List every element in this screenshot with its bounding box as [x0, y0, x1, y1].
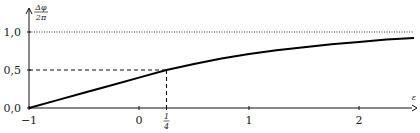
y-tick-label: 1,0	[4, 26, 22, 39]
x-tick-label: 2	[356, 114, 363, 127]
x-tick-label-numerator: 1	[164, 112, 169, 121]
y-axis-label-denominator: 2π	[35, 13, 47, 22]
phase-shift-chart: −1014120,00,51,0Δφ2πε	[0, 0, 420, 133]
x-axis-arrow-icon	[412, 105, 417, 111]
curve-series	[29, 38, 414, 108]
y-axis-label-numerator: Δφ	[34, 3, 47, 12]
x-tick-label: −1	[21, 114, 37, 127]
x-tick-label: 0	[136, 114, 143, 127]
x-tick-label-denominator: 4	[163, 122, 169, 131]
y-tick-label: 0,5	[4, 64, 22, 77]
plot-area: −1014120,00,51,0Δφ2πε	[4, 3, 418, 131]
y-tick-label: 0,0	[4, 102, 22, 115]
x-axis-label: ε	[412, 93, 416, 102]
x-tick-label: 1	[246, 114, 253, 127]
